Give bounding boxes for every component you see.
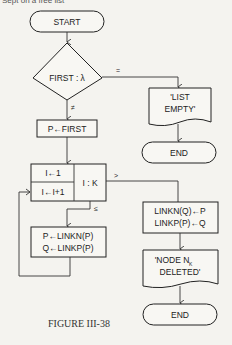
advance-pointers-box: P←LINKN(P) Q←LINKP(P)	[31, 227, 106, 257]
start-label: START	[53, 17, 80, 27]
list-empty-line2: EMPTY'	[165, 104, 196, 114]
header-text: Sept on a free list	[2, 0, 65, 5]
loop-box: I←1 I←I+1 I : K	[31, 164, 106, 201]
assign-p-first-box: P←FIRST	[37, 120, 97, 137]
branch-greater-label: >	[114, 172, 118, 179]
output-list-empty: 'LIST EMPTY'	[149, 88, 211, 126]
branch-not-equal-label: ≠	[71, 104, 75, 111]
relink-line1: LINKN(Q)←P	[154, 206, 206, 216]
figure-caption: FIGURE III-38	[48, 318, 110, 329]
node-deleted-line2: DELETED'	[160, 267, 201, 277]
branch-equal-label: =	[116, 67, 120, 74]
flowchart-diagram: Sept on a free list START FIRST : λ = ≠ …	[0, 0, 232, 345]
relink-box: LINKN(Q)←P LINKP(P)←Q	[143, 202, 218, 233]
decision-first-null: FIRST : λ	[33, 43, 102, 100]
list-empty-line1: 'LIST	[170, 92, 190, 102]
end-bottom-label: END	[171, 310, 189, 320]
end-top-label: END	[170, 148, 188, 158]
output-node-deleted: 'NODE N K DELETED'	[143, 250, 218, 288]
node-deleted-line1: 'NODE N	[155, 255, 190, 265]
advance-line2: Q←LINKP(P)	[42, 243, 93, 253]
relink-line2: LINKP(P)←Q	[154, 218, 205, 228]
start-terminal: START	[30, 11, 104, 32]
assign-p-first-label: P←FIRST	[48, 124, 87, 134]
loop-increment-label: I←I+1	[42, 187, 65, 197]
end-terminal-top: END	[142, 142, 216, 163]
loop-init-label: I←1	[45, 168, 61, 178]
end-terminal-bottom: END	[143, 304, 217, 325]
loop-compare-label: I : K	[82, 178, 97, 188]
decision-first-label: FIRST : λ	[49, 73, 85, 83]
branch-less-equal-label: ≤	[94, 205, 98, 212]
advance-line1: P←LINKN(P)	[43, 231, 94, 241]
